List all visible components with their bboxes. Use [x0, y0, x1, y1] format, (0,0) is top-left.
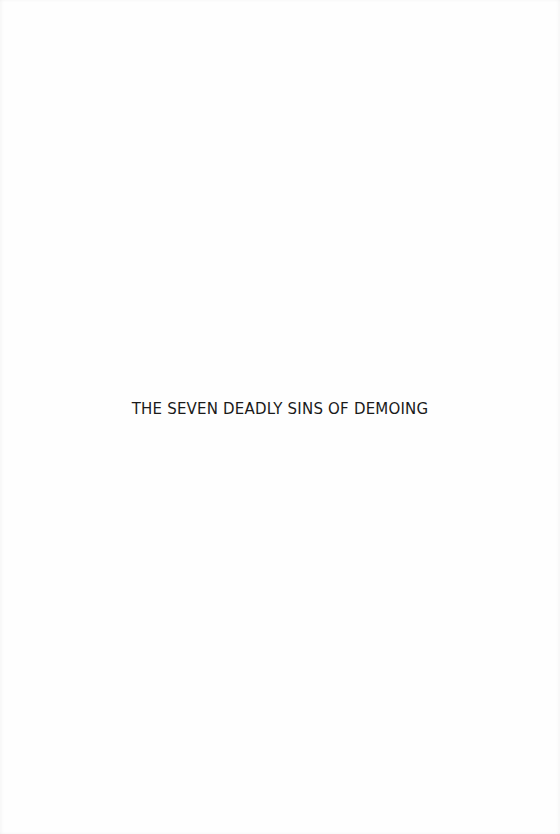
page-title: THE SEVEN DEADLY SINS OF DEMOING — [0, 399, 560, 419]
document-page: THE SEVEN DEADLY SINS OF DEMOING — [0, 0, 560, 834]
